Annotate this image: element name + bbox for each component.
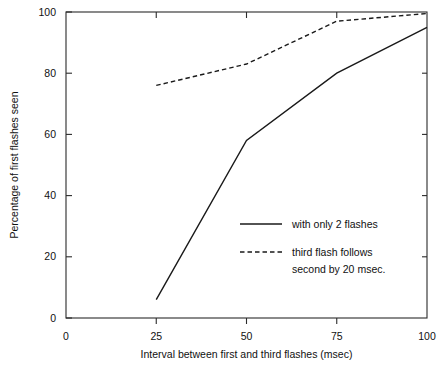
x-axis-title: Interval between first and third flashes… xyxy=(141,348,353,360)
y-axis-tick-label: 60 xyxy=(44,128,56,140)
y-axis-tick-label: 20 xyxy=(44,250,56,262)
y-axis-tick-label: 100 xyxy=(38,6,56,18)
x-axis-tick-label: 25 xyxy=(150,330,162,342)
y-axis-title: Percentage of first flashes seen xyxy=(8,91,20,238)
x-axis-tick-label: 50 xyxy=(241,330,253,342)
legend-label-2-line2: second by 20 msec. xyxy=(292,263,385,275)
legend-label-2-line1: third flash follows xyxy=(292,246,373,258)
y-axis-tick-label: 80 xyxy=(44,67,56,79)
chart-figure: 0204060801000255075100Interval between f… xyxy=(0,0,442,368)
x-axis-tick-label: 100 xyxy=(418,330,436,342)
series-line-1 xyxy=(156,27,427,299)
x-axis-tick-label: 0 xyxy=(63,330,69,342)
series-line-2 xyxy=(156,14,427,86)
x-axis-tick-label: 75 xyxy=(331,330,343,342)
legend-label-1: with only 2 flashes xyxy=(291,218,378,230)
y-axis-tick-label: 0 xyxy=(50,312,56,324)
line-chart: 0204060801000255075100Interval between f… xyxy=(0,0,442,368)
y-axis-tick-label: 40 xyxy=(44,189,56,201)
